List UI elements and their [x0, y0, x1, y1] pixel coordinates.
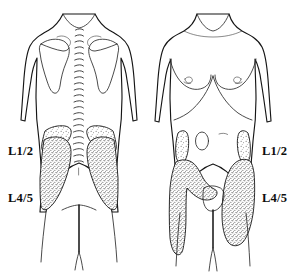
referred-pain-figure: L1/2 L4/5 L1/2 L4/5	[0, 0, 301, 272]
label-anterior-l45: L4/5	[262, 191, 287, 205]
label-posterior-l12: L1/2	[8, 144, 33, 158]
posterior-view	[21, 14, 137, 270]
posterior-right-zone-l45	[87, 137, 118, 210]
posterior-left-pain-zone	[40, 126, 71, 210]
label-posterior-l45: L4/5	[8, 191, 33, 205]
label-anterior-l12: L1/2	[262, 144, 287, 158]
anterior-left-zone-l45	[169, 160, 217, 255]
posterior-right-pain-zone	[87, 126, 118, 210]
anatomy-illustration: L1/2 L4/5 L1/2 L4/5	[0, 0, 301, 272]
posterior-left-zone-l45	[40, 137, 71, 210]
gluteal-detail	[41, 205, 117, 270]
anterior-view	[155, 14, 271, 271]
